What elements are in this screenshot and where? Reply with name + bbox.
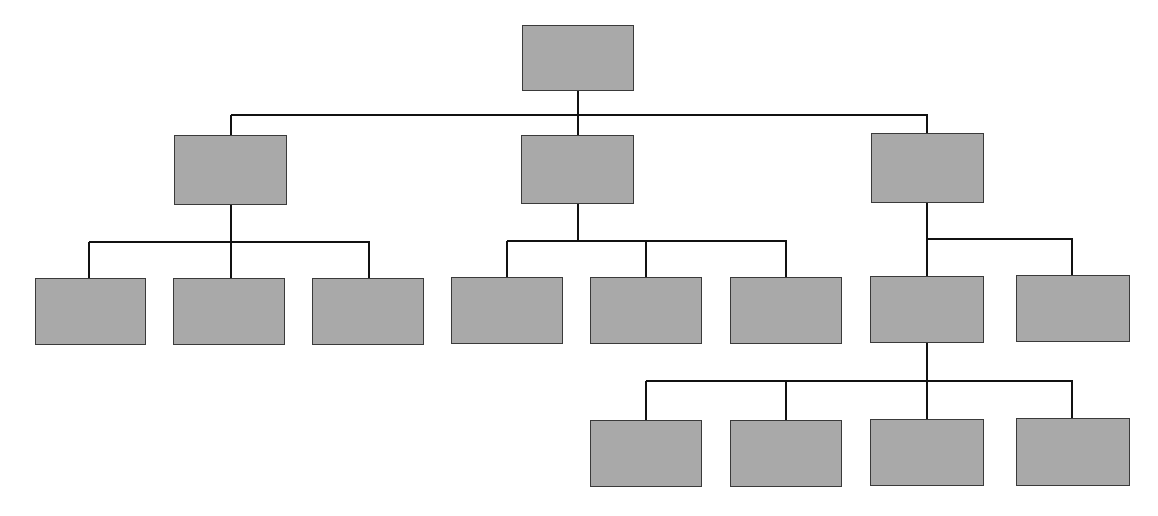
org-node-l2-a: [35, 278, 146, 345]
org-node-l2-f: [730, 277, 842, 344]
connector-line: [645, 241, 647, 277]
org-node-l2-e: [590, 277, 702, 344]
connector-line: [1071, 239, 1073, 275]
connector-line: [231, 114, 928, 116]
org-node-l3-a: [590, 420, 702, 487]
connector-line: [927, 238, 1073, 240]
connector-line: [89, 241, 370, 243]
org-node-l1-left: [174, 135, 287, 205]
connector-line: [577, 204, 579, 241]
org-node-l2-b: [173, 278, 285, 345]
connector-line: [368, 242, 370, 278]
connector-line: [646, 380, 1073, 382]
connector-line: [1071, 380, 1073, 418]
org-node-l2-c: [312, 278, 424, 345]
connector-line: [577, 91, 579, 115]
connector-line: [785, 241, 787, 277]
connector-line: [230, 115, 232, 135]
connector-line: [645, 381, 647, 420]
connector-line: [88, 242, 90, 278]
org-node-l2-h: [1016, 275, 1130, 342]
connector-line: [506, 241, 508, 277]
org-chart-diagram: [0, 0, 1158, 516]
org-node-l3-d: [1016, 418, 1130, 486]
org-node-root: [522, 25, 634, 91]
org-node-l1-mid: [521, 135, 634, 204]
org-node-l2-d: [451, 277, 563, 344]
org-node-l1-right: [871, 133, 984, 203]
connector-line: [785, 381, 787, 420]
connector-line: [577, 115, 579, 135]
org-node-l2-g: [870, 276, 984, 343]
org-node-l3-b: [730, 420, 842, 487]
connector-line: [507, 240, 787, 242]
connector-line: [926, 115, 928, 133]
org-node-l3-c: [870, 419, 984, 486]
